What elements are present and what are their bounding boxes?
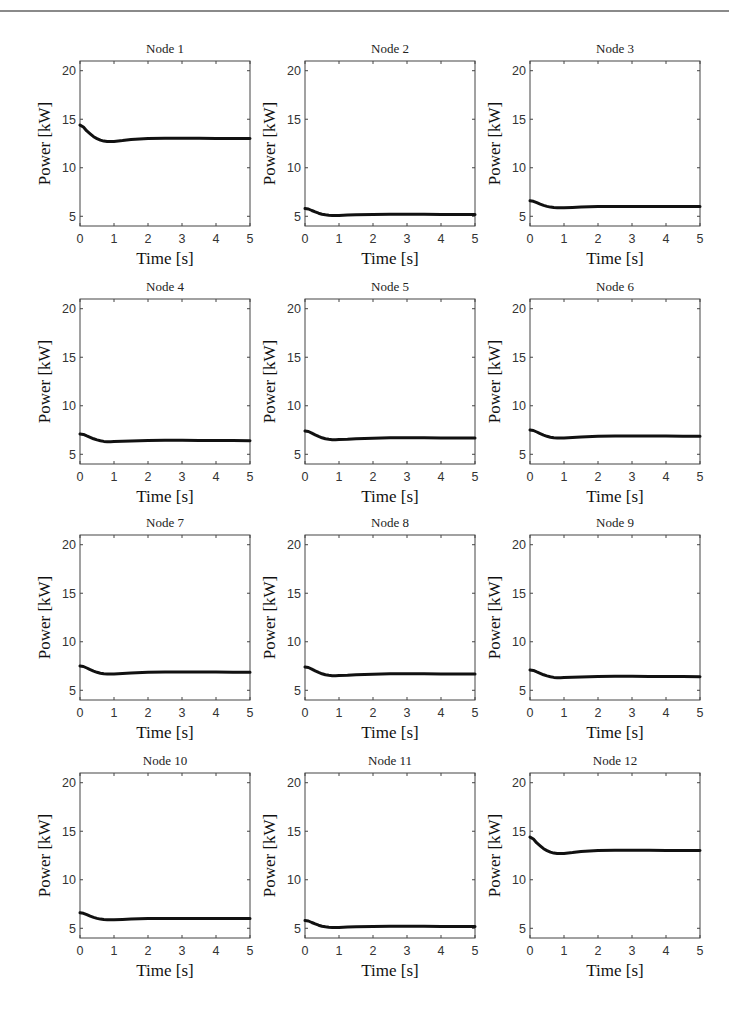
subplot-title: Node 4 [146,279,184,294]
x-axis: 012345 [527,773,704,958]
subplot-node-2: Node 2 5101520 012345 Time [s] Power [kW… [255,37,484,273]
x-axis: 012345 [527,535,704,720]
x-axis: 012345 [77,61,254,246]
x-tick-label: 4 [438,944,445,958]
x-tick-label: 1 [561,470,568,484]
x-tick-label: 0 [77,232,84,246]
y-axis-label: Power [kW] [485,102,504,186]
y-tick-label: 5 [69,210,76,224]
y-tick-label: 10 [62,635,76,649]
x-tick-label: 5 [472,706,479,720]
x-tick-label: 2 [370,944,377,958]
x-axis-label: Time [s] [586,723,643,742]
subplot-node-8: Node 8 5101520 012345 Time [s] Power [kW… [255,511,484,747]
power-curve [80,125,250,142]
x-axis: 012345 [302,535,479,720]
x-tick-label: 4 [663,706,670,720]
y-tick-label: 20 [512,776,526,790]
x-axis: 012345 [527,61,704,246]
y-axis-label: Power [kW] [260,814,279,898]
y-tick-label: 20 [62,538,76,552]
x-tick-label: 5 [472,944,479,958]
y-axis-label: Power [kW] [35,340,54,424]
x-tick-label: 2 [595,470,602,484]
x-tick-label: 0 [302,706,309,720]
x-tick-label: 1 [111,944,118,958]
y-tick-label: 10 [512,161,526,175]
x-tick-label: 2 [595,944,602,958]
x-axis: 012345 [77,773,254,958]
plot-frame [305,773,475,938]
subplot-svg: Node 10 5101520 012345 Time [s] Power [k… [30,749,259,985]
x-axis: 012345 [77,535,254,720]
x-tick-label: 0 [302,944,309,958]
subplot-node-4: Node 4 5101520 012345 Time [s] Power [kW… [30,275,259,511]
x-axis-label: Time [s] [361,723,418,742]
y-axis: 5101520 [62,776,250,936]
x-tick-label: 0 [527,944,534,958]
x-tick-label: 2 [370,706,377,720]
y-axis-label: Power [kW] [260,576,279,660]
subplot-svg: Node 1 5101520 012345 Time [s] Power [kW… [30,37,259,273]
subplot-title: Node 9 [596,515,634,530]
y-axis-label: Power [kW] [260,340,279,424]
y-tick-label: 5 [69,922,76,936]
x-tick-label: 4 [438,470,445,484]
x-tick-label: 1 [336,706,343,720]
y-tick-label: 10 [287,399,301,413]
x-tick-label: 4 [213,706,220,720]
subplot-node-1: Node 1 5101520 012345 Time [s] Power [kW… [30,37,259,273]
y-tick-label: 20 [287,538,301,552]
y-tick-label: 10 [512,873,526,887]
y-axis-label: Power [kW] [35,102,54,186]
x-tick-label: 0 [77,470,84,484]
x-tick-label: 3 [629,470,636,484]
subplot-node-5: Node 5 5101520 012345 Time [s] Power [kW… [255,275,484,511]
x-tick-label: 1 [561,944,568,958]
x-tick-label: 5 [247,944,254,958]
subplot-svg: Node 11 5101520 012345 Time [s] Power [k… [255,749,484,985]
y-tick-label: 10 [62,161,76,175]
subplot-title: Node 11 [368,753,412,768]
subplot-node-12: Node 12 5101520 012345 Time [s] Power [k… [480,749,709,985]
x-tick-label: 1 [111,470,118,484]
subplot-title: Node 5 [371,279,409,294]
subplot-svg: Node 2 5101520 012345 Time [s] Power [kW… [255,37,484,273]
x-tick-label: 4 [663,470,670,484]
y-axis-label: Power [kW] [485,576,504,660]
subplot-svg: Node 6 5101520 012345 Time [s] Power [kW… [480,275,709,511]
subplot-svg: Node 9 5101520 012345 Time [s] Power [kW… [480,511,709,747]
x-tick-label: 4 [213,944,220,958]
y-tick-label: 5 [69,684,76,698]
header-rule [0,10,729,12]
x-tick-label: 4 [663,944,670,958]
y-tick-label: 5 [294,922,301,936]
x-axis-label: Time [s] [586,961,643,980]
subplot-node-10: Node 10 5101520 012345 Time [s] Power [k… [30,749,259,985]
x-axis-label: Time [s] [136,487,193,506]
plot-frame [80,773,250,938]
power-curve [530,201,700,208]
y-tick-label: 15 [62,825,76,839]
x-tick-label: 0 [302,470,309,484]
power-curve [80,913,250,920]
power-curve [530,837,700,854]
x-tick-label: 1 [336,232,343,246]
subplot-title: Node 8 [371,515,409,530]
y-tick-label: 5 [294,210,301,224]
x-tick-label: 4 [663,232,670,246]
subplot-svg: Node 8 5101520 012345 Time [s] Power [kW… [255,511,484,747]
y-tick-label: 15 [287,587,301,601]
x-axis: 012345 [302,299,479,484]
x-tick-label: 2 [145,232,152,246]
y-tick-label: 20 [512,64,526,78]
x-tick-label: 2 [145,944,152,958]
x-axis-label: Time [s] [361,249,418,268]
y-tick-label: 20 [287,64,301,78]
plot-frame [80,61,250,226]
x-tick-label: 5 [247,232,254,246]
y-tick-label: 20 [512,302,526,316]
x-tick-label: 3 [179,232,186,246]
y-tick-label: 20 [62,64,76,78]
y-tick-label: 15 [62,113,76,127]
